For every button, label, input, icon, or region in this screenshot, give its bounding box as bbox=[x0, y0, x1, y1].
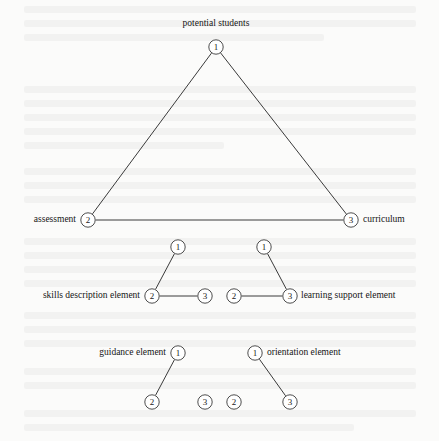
curriculum-label: curriculum bbox=[363, 215, 405, 225]
potential-students-label: potential students bbox=[183, 19, 250, 29]
skills-label: skills description element bbox=[43, 291, 140, 301]
assessment-label: assessment bbox=[34, 215, 76, 225]
diagram-page: 123123123123123 potential studentsassess… bbox=[0, 0, 439, 441]
learning-label: learning support element bbox=[301, 291, 395, 301]
orientation-label: orientation element bbox=[267, 348, 341, 358]
label-layer: potential studentsassessmentcurriculumsk… bbox=[0, 0, 439, 441]
guidance-label: guidance element bbox=[99, 348, 166, 358]
